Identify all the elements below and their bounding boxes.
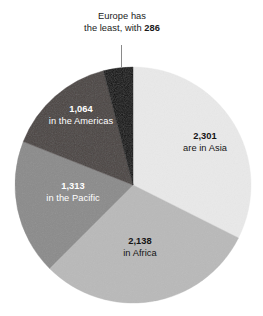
slice-label-americas-value: 1,064 [31,103,131,115]
slice-label-africa: 2,138 in Africa [98,235,182,259]
slice-label-pacific: 1,313 in the Pacific [27,180,119,204]
europe-callout-line1: Europe has [98,11,146,21]
slice-label-pacific-desc: in the Pacific [27,192,119,204]
slice-label-asia: 2,301 are in Asia [163,130,247,154]
slice-label-asia-desc: are in Asia [163,142,247,154]
europe-callout-line2-prefix: the least, with [84,23,144,33]
slice-label-africa-value: 2,138 [98,235,182,247]
slice-label-asia-value: 2,301 [163,130,247,142]
europe-callout: Europe has the least, with 286 [34,10,210,34]
slice-label-americas-desc: in the Americas [31,115,131,127]
slice-label-americas: 1,064 in the Americas [31,103,131,127]
slice-label-pacific-value: 1,313 [27,180,119,192]
slice-label-africa-desc: in Africa [98,247,182,259]
pie-chart: Europe has the least, with 286 2,301 are… [0,0,263,316]
pie-chart-canvas [0,0,263,316]
europe-callout-value: 286 [144,23,160,33]
